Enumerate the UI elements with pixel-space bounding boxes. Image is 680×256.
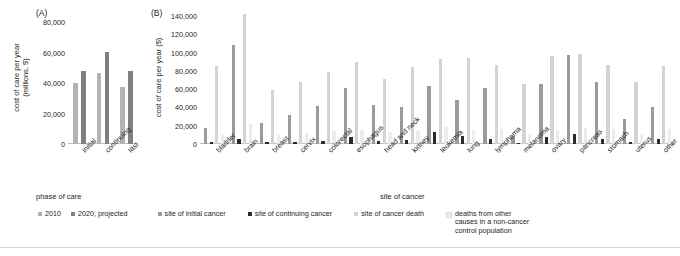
bar — [411, 67, 414, 144]
y-tick-label: 20,000 — [43, 109, 65, 118]
y-tick-label: 100,000 — [171, 48, 197, 57]
legend-label: site of cancer death — [361, 210, 424, 218]
bar — [232, 45, 235, 144]
legend-swatch-icon — [38, 212, 42, 216]
bar — [321, 141, 324, 144]
bar — [467, 58, 470, 144]
bar — [427, 86, 430, 145]
panel-a-letter: (A) — [36, 8, 47, 18]
y-tick-label: 120,000 — [171, 30, 197, 39]
bar — [97, 73, 102, 144]
legend-item: site of initial cancer — [158, 210, 226, 218]
panel-b-y-axis-title: cost of care per year ($) — [154, 15, 163, 140]
bar — [606, 65, 609, 144]
bar — [578, 54, 581, 144]
bar — [271, 90, 274, 144]
bar — [489, 139, 492, 144]
legend-label: deaths from other causes in a non-cancer… — [455, 210, 529, 235]
bar — [433, 132, 436, 144]
legend-item: 2010 — [38, 210, 61, 218]
bar — [215, 66, 218, 144]
legend-label: site of continuing cancer — [255, 210, 333, 218]
y-tick-label: 80,000 — [43, 18, 65, 27]
y-tick-label: 20,000 — [175, 121, 197, 130]
legend-swatch-icon — [248, 212, 252, 216]
bar — [573, 134, 576, 144]
legend-swatch-icon — [354, 212, 358, 216]
y-tick-label: 140,000 — [171, 12, 197, 21]
y-tick-label: 40,000 — [175, 103, 197, 112]
bar — [260, 123, 263, 144]
panel-b: (B) cost of care per year ($) 020,00040,… — [148, 0, 680, 205]
bar — [73, 83, 78, 144]
legend-label: 2010 — [45, 210, 61, 218]
y-tick-label: 40,000 — [43, 79, 65, 88]
legend-swatch-icon — [71, 212, 75, 216]
bar — [355, 62, 358, 144]
bar — [316, 106, 319, 144]
bar — [483, 88, 486, 144]
figure-root: (A) cost of care per year (millions, $) … — [0, 0, 680, 256]
bar — [299, 82, 302, 144]
bar — [237, 139, 240, 144]
bar — [495, 65, 498, 144]
bar — [204, 128, 207, 144]
y-tick-label: 0 — [61, 140, 65, 149]
figure-legend: 20102020, projectedsite of initial cance… — [38, 210, 658, 235]
bar — [81, 71, 86, 144]
legend-item: deaths from other causes in a non-cancer… — [446, 210, 529, 235]
panel-a-x-axis-title: phase of care — [36, 192, 81, 201]
bar — [349, 137, 352, 144]
bar — [293, 142, 296, 144]
bar — [657, 139, 660, 144]
bar — [662, 66, 665, 144]
y-tick-label: 0 — [193, 140, 197, 149]
bar — [243, 14, 246, 144]
legend-item: site of cancer death — [354, 210, 424, 218]
bar — [439, 59, 442, 144]
y-tick-label: 60,000 — [175, 85, 197, 94]
panel-a-y-axis-title: cost of care per year (millions, $) — [12, 20, 30, 135]
legend-swatch-icon — [446, 212, 452, 218]
bar — [545, 137, 548, 144]
bar — [405, 140, 408, 144]
bar — [629, 142, 632, 144]
bar — [522, 84, 525, 144]
panel-b-plot-area — [200, 16, 675, 144]
bar — [601, 139, 604, 144]
bar — [383, 79, 386, 144]
y-tick-label: 80,000 — [175, 66, 197, 75]
bar — [634, 82, 637, 144]
panel-b-x-axis-title: site of cancer — [380, 192, 425, 201]
legend-item: 2020, projected — [71, 210, 128, 218]
bar — [265, 142, 268, 144]
bar — [517, 143, 520, 144]
y-tick-label: 60,000 — [43, 48, 65, 57]
bar — [567, 55, 570, 144]
bar — [210, 142, 213, 144]
bar — [105, 52, 110, 144]
legend-label: site of initial cancer — [165, 210, 226, 218]
legend-label: 2020, projected — [78, 210, 128, 218]
legend-item: site of continuing cancer — [248, 210, 333, 218]
footer-divider — [0, 247, 680, 248]
bar — [327, 72, 330, 144]
bar — [377, 141, 380, 144]
legend-swatch-icon — [158, 212, 162, 216]
